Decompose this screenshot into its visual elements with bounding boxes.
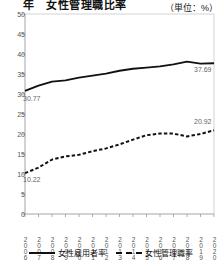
axes [25,14,214,214]
y-axis-tick-label: 45 [9,31,25,38]
y-axis-tick-label: 20 [9,131,25,138]
series-line-employee-rate [25,62,214,91]
plot-area: 05101520253035404550 2006200720082009201… [0,14,222,226]
chart-svg [0,14,222,226]
data-label-manager-start: 10.22 [23,176,41,183]
series-line-manager-rate [25,130,214,173]
y-axis-tick-label: 35 [9,71,25,78]
data-label-employee-end: 37.69 [194,66,212,73]
legend-item-manager-rate: 女性管理職率 [116,247,193,258]
y-axis-tick-label: 0 [9,211,25,218]
data-label-manager-end: 20.92 [194,118,212,125]
y-axis-tick-label: 25 [9,111,25,118]
y-axis-tick-label: 50 [9,11,25,18]
chart-container: 年 女性管理職比率 （単位：%） 05101520253035404550 20… [0,0,222,262]
series-layer [25,62,214,174]
y-axis-tick-label: 15 [9,151,25,158]
legend-label-employee-rate: 女性雇用者率 [58,247,106,258]
legend-label-manager-rate: 女性管理職率 [145,247,193,258]
legend-line-solid-icon [29,252,55,254]
y-axis-tick-label: 5 [9,191,25,198]
chart-legend: 女性雇用者率 女性管理職率 [0,243,222,262]
legend-item-employee-rate: 女性雇用者率 [29,247,106,258]
legend-line-dashed-icon [116,252,142,254]
unit-note: （単位：%） [165,1,218,14]
y-axis-tick-label: 40 [9,51,25,58]
data-label-employee-start: 30.77 [23,95,41,102]
